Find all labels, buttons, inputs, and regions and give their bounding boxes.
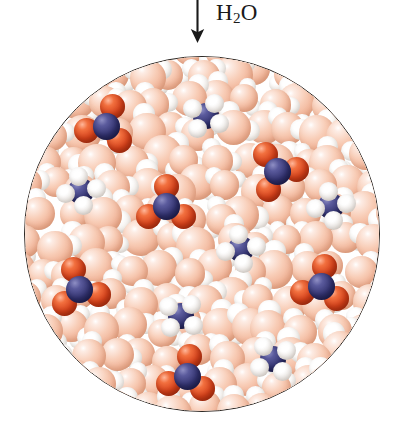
solution-container: [24, 56, 380, 412]
hydrogen-atom: [216, 242, 235, 261]
hydrogen-atom: [188, 119, 207, 138]
down-arrow-icon: [186, 0, 210, 46]
hydrogen-atom: [183, 99, 202, 118]
nitrogen-atom: [66, 276, 93, 303]
hydrogen-atom: [182, 295, 201, 314]
hydrogen-atom: [205, 94, 224, 113]
nitrogen-atom: [153, 193, 180, 220]
hydrogen-atom: [56, 184, 75, 203]
figure-canvas: H2O: [0, 0, 405, 440]
hydrogen-atom: [184, 316, 203, 335]
nitrogen-atom: [308, 273, 335, 300]
hydrogen-atom: [161, 318, 180, 337]
hydrogen-atom: [306, 199, 325, 218]
nitrogen-atom: [264, 158, 291, 185]
water-formula-label: H2O: [216, 1, 258, 26]
hydrogen-atom: [277, 341, 296, 360]
water-subscript: 2: [233, 9, 241, 26]
hydrogen-atom: [319, 182, 338, 201]
reagent-arrow-group: H2O: [0, 0, 405, 50]
hydrogen-atom: [273, 362, 292, 381]
hydrogen-atom: [229, 225, 248, 244]
water-oxygen: [29, 314, 63, 348]
nitrogen-atom: [93, 113, 120, 140]
hydrogen-atom: [69, 167, 88, 186]
water-oxygen: [307, 366, 346, 405]
nitrogen-atom: [174, 363, 201, 390]
solvent-field: [24, 56, 380, 412]
